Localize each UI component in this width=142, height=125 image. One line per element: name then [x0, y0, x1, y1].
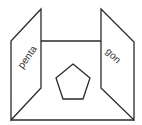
pentagon-shape	[56, 64, 90, 99]
right-panel	[101, 9, 134, 120]
right-panel-label: gon	[104, 46, 124, 66]
pentagon-diagram: penta gon	[0, 0, 142, 125]
left-panel-label: penta	[15, 43, 39, 70]
